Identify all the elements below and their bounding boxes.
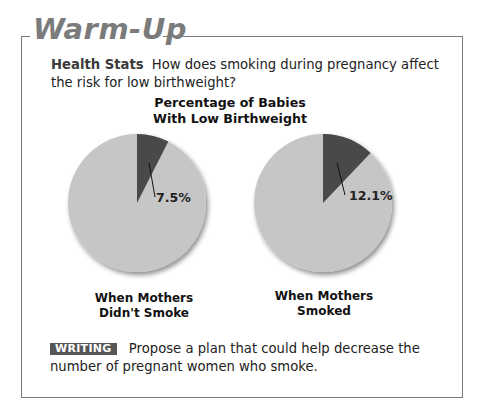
chart-title-line-1: Percentage of Babies bbox=[130, 95, 330, 111]
chart-title: Percentage of Babies With Low Birthweigh… bbox=[130, 95, 330, 127]
caption-no-smoke: When Mothers Didn't Smoke bbox=[64, 291, 224, 321]
caption-line-1: When Mothers bbox=[244, 289, 404, 304]
caption-line-1: When Mothers bbox=[64, 291, 224, 306]
frame-top-right-line bbox=[163, 36, 463, 37]
pie-chart-smoked bbox=[246, 126, 406, 286]
frame-bottom-line bbox=[21, 397, 463, 398]
pie-chart-no-smoke bbox=[60, 126, 220, 286]
caption-line-2: Smoked bbox=[244, 304, 404, 319]
question-paragraph: Health Stats How does smoking during pre… bbox=[51, 56, 451, 92]
frame-right-line bbox=[462, 36, 463, 398]
pie-label-smoked: 12.1% bbox=[349, 189, 393, 203]
caption-line-2: Didn't Smoke bbox=[64, 306, 224, 321]
caption-smoked: When Mothers Smoked bbox=[244, 289, 404, 319]
writing-prompt: WRITING Propose a plan that could help d… bbox=[50, 340, 450, 376]
question-lead: Health Stats bbox=[51, 57, 144, 72]
chart-title-line-2: With Low Birthweight bbox=[130, 111, 330, 127]
frame-left-line bbox=[21, 36, 22, 398]
writing-badge: WRITING bbox=[50, 343, 117, 355]
pie-label-no-smoke: 7.5% bbox=[156, 191, 191, 205]
section-title: Warm-Up bbox=[33, 13, 187, 45]
frame-top-left-line bbox=[21, 36, 30, 37]
